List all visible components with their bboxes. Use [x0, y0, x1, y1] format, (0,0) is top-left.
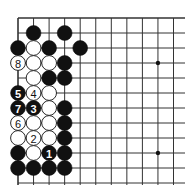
black-stone-icon — [11, 146, 26, 161]
black-stone: 3 — [26, 101, 41, 116]
white-stone — [26, 146, 41, 161]
white-stone — [26, 116, 41, 131]
move-number-label: 1 — [46, 148, 52, 160]
white-stone-icon — [11, 131, 26, 146]
star-point-icon — [156, 61, 160, 65]
black-stone-icon — [26, 161, 41, 176]
move-number-label: 8 — [15, 58, 21, 70]
black-stone — [26, 26, 41, 41]
move-number-label: 2 — [30, 133, 36, 145]
move-number-label: 3 — [30, 103, 36, 115]
black-stone-icon — [57, 71, 72, 86]
black-stone — [57, 56, 72, 71]
star-point-icon — [156, 151, 160, 155]
black-stone: 5 — [11, 86, 26, 101]
black-stone — [42, 161, 57, 176]
black-stone: 1 — [42, 146, 57, 161]
white-stone — [11, 131, 26, 146]
black-stone — [42, 71, 57, 86]
move-number-label: 5 — [15, 88, 21, 100]
white-stone — [42, 131, 57, 146]
black-stone — [42, 41, 57, 56]
black-stone-icon — [42, 41, 57, 56]
white-stone-icon — [26, 56, 41, 71]
black-stone — [57, 131, 72, 146]
black-stone-icon — [11, 41, 26, 56]
white-stone — [26, 56, 41, 71]
black-stone — [57, 101, 72, 116]
black-stone: 7 — [11, 101, 26, 116]
black-stone-icon — [57, 131, 72, 146]
black-stone-icon — [57, 101, 72, 116]
white-stone — [42, 116, 57, 131]
black-stone — [11, 41, 26, 56]
white-stone — [42, 101, 57, 116]
white-stone — [26, 71, 41, 86]
black-stone-icon — [26, 26, 41, 41]
white-stone-icon — [42, 131, 57, 146]
black-stone — [26, 161, 41, 176]
white-stone: 2 — [26, 131, 41, 146]
black-stone — [11, 161, 26, 176]
move-number-label: 7 — [15, 103, 21, 115]
black-stone — [57, 146, 72, 161]
white-stone — [26, 41, 41, 56]
move-number-label: 4 — [30, 88, 36, 100]
white-stone-icon — [26, 41, 41, 56]
white-stone-icon — [42, 86, 57, 101]
white-stone-icon — [26, 71, 41, 86]
go-board-diagram: 85473621 — [0, 0, 191, 185]
white-stone-icon — [42, 56, 57, 71]
black-stone — [73, 41, 88, 56]
white-stone — [42, 86, 57, 101]
black-stone — [11, 146, 26, 161]
white-stone: 6 — [11, 116, 26, 131]
white-stone-icon — [26, 146, 41, 161]
black-stone — [57, 71, 72, 86]
white-stone-icon — [26, 116, 41, 131]
board-grid — [18, 18, 185, 185]
black-stone-icon — [42, 71, 57, 86]
move-number-label: 6 — [15, 118, 21, 130]
black-stone — [57, 116, 72, 131]
white-stone-icon — [42, 116, 57, 131]
black-stone — [57, 161, 72, 176]
black-stone — [57, 26, 72, 41]
black-stone-icon — [42, 161, 57, 176]
black-stone-icon — [57, 116, 72, 131]
black-stone-icon — [57, 56, 72, 71]
black-stone-icon — [57, 26, 72, 41]
black-stone-icon — [73, 41, 88, 56]
white-stone-icon — [42, 101, 57, 116]
black-stone-icon — [11, 161, 26, 176]
white-stone — [42, 56, 57, 71]
white-stone: 8 — [11, 56, 26, 71]
black-stone-icon — [57, 161, 72, 176]
white-stone: 4 — [26, 86, 41, 101]
black-stone-icon — [57, 146, 72, 161]
